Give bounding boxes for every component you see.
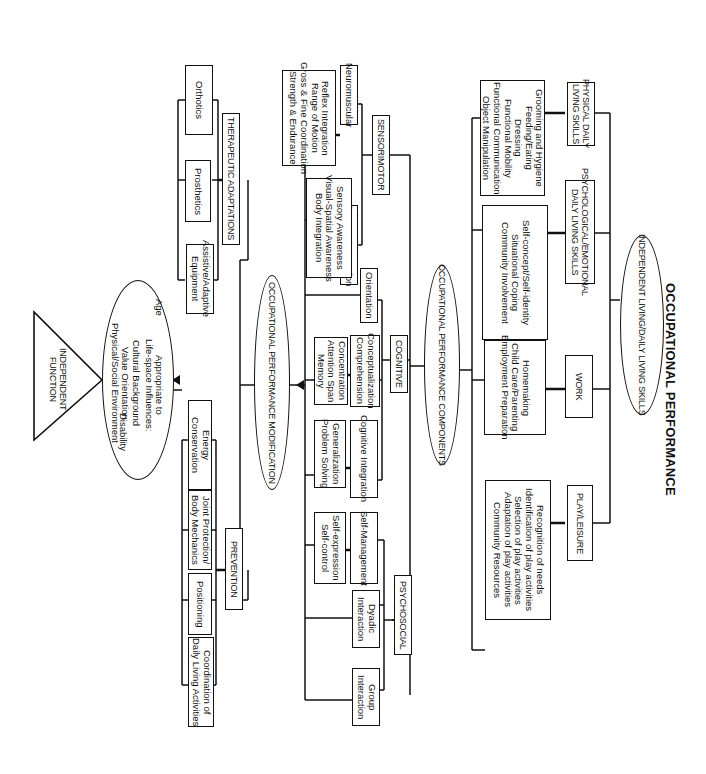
root-label: INDEPENDENT FUNCTION	[48, 348, 68, 410]
root-triangle	[0, 0, 706, 774]
